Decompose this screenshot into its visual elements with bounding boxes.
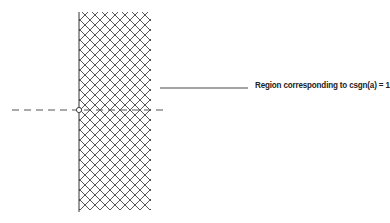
origin-circle [76,107,81,112]
region-annotation-label: Region corresponding to csgn(a) = 1 [255,79,390,90]
hatched-region [79,12,151,210]
